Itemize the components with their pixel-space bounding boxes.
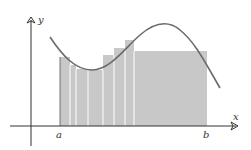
- riemann-rectangle: [60, 57, 70, 126]
- riemann-rectangle: [88, 70, 103, 126]
- riemann-sum-diagram: y x a b: [0, 0, 251, 150]
- b-label: b: [203, 129, 209, 140]
- riemann-rectangle: [114, 48, 125, 126]
- y-axis-label: y: [37, 14, 44, 25]
- riemann-rectangle: [76, 69, 88, 126]
- riemann-rectangle: [125, 40, 134, 126]
- riemann-rectangles: [60, 40, 207, 126]
- x-axis-label: x: [233, 111, 239, 122]
- riemann-rectangle: [70, 65, 76, 126]
- riemann-rectangle: [134, 51, 207, 126]
- a-label: a: [56, 129, 62, 140]
